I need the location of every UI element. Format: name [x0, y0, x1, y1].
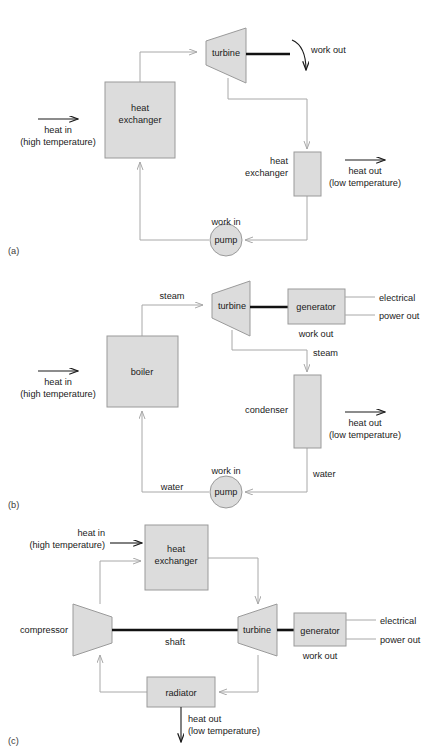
work-out-arrow-a: [292, 40, 306, 70]
panel-b: steam steam water water boiler turbine g…: [8, 281, 420, 510]
work-in-label-b: work in: [210, 466, 240, 476]
flow-boiler-to-turbine: [142, 305, 203, 336]
node-compressor[interactable]: [73, 604, 112, 656]
node-pump-a-label: pump: [215, 235, 238, 245]
heat-out-label-b-1: heat out: [348, 418, 382, 428]
node-heat-exchanger-hot-label-1: heat: [131, 103, 149, 113]
flow-turbine-to-condenser: [232, 330, 307, 372]
work-in-label-a: work in: [210, 217, 240, 227]
heat-out-label-a-1: heat out: [348, 166, 382, 176]
panel-tag-a: (a): [8, 246, 19, 256]
steam-label-right-b: steam: [313, 348, 338, 358]
panel-tag-b: (b): [8, 500, 19, 510]
heat-out-label-b-2: (low temperature): [329, 430, 401, 440]
node-condenser-label: condenser: [245, 405, 288, 415]
heat-in-label-b-1: heat in: [44, 377, 72, 387]
panel-tag-c: (c): [8, 736, 19, 746]
panel-a: heat exchanger turbine work out heat exc…: [8, 28, 401, 256]
heat-in-label-a-2: (high temperature): [20, 137, 96, 147]
flow-hx-to-turbine: [208, 558, 258, 604]
work-out-label-c: work out: [302, 651, 338, 661]
work-out-label-b: work out: [298, 329, 334, 339]
node-radiator-label: radiator: [165, 688, 196, 698]
electrical-label-c-1: electrical: [380, 616, 416, 626]
node-boiler-label: boiler: [131, 367, 153, 377]
water-label-bottom-b: water: [160, 482, 183, 492]
node-turbine-c-label: turbine: [243, 625, 271, 635]
steam-label-top-b: steam: [159, 291, 184, 301]
heat-in-label-c-2: (high temperature): [29, 540, 105, 550]
node-heat-exchanger-cold-label-2: exchanger: [245, 168, 288, 178]
flow-hx-cold-to-pump: [245, 195, 307, 240]
heat-out-label-c-2: (low temperature): [188, 726, 260, 736]
electrical-label-b-2: power out: [379, 311, 420, 321]
panel-c: heat exchanger heat in (high temperature…: [8, 525, 421, 746]
flow-pump-to-hx-hot: [140, 162, 209, 240]
heat-in-label-a-1: heat in: [44, 125, 72, 135]
heat-in-label-b-2: (high temperature): [20, 389, 96, 399]
figure-canvas: heat exchanger turbine work out heat exc…: [0, 0, 426, 755]
heat-out-label-a-2: (low temperature): [329, 178, 401, 188]
flow-radiator-to-compressor: [100, 655, 147, 692]
work-out-label-a: work out: [310, 45, 346, 55]
node-heat-exchanger-cold-label-1: heat: [270, 156, 288, 166]
node-compressor-label: compressor: [20, 625, 68, 635]
shaft-label-c: shaft: [165, 637, 185, 647]
node-condenser[interactable]: [294, 375, 321, 448]
node-heat-exchanger-cold[interactable]: [294, 152, 321, 196]
flow-turbine-to-radiator: [219, 655, 258, 692]
diagram-svg: heat exchanger turbine work out heat exc…: [0, 0, 426, 755]
flow-hx-hot-to-turbine: [140, 52, 197, 82]
node-pump-b-label: pump: [215, 487, 238, 497]
flow-compressor-to-hx: [100, 561, 141, 604]
node-heat-exchanger-c-label-2: exchanger: [155, 556, 198, 566]
water-label-right-b: water: [312, 469, 335, 479]
electrical-label-c-2: power out: [380, 635, 421, 645]
node-generator-c-label: generator: [300, 626, 339, 636]
flow-condenser-to-pump: [245, 448, 307, 492]
node-heat-exchanger-c-label-1: heat: [167, 544, 185, 554]
heat-in-label-c-1: heat in: [77, 528, 105, 538]
node-turbine-a-label: turbine: [212, 48, 240, 58]
heat-out-label-c-1: heat out: [188, 714, 222, 724]
node-heat-exchanger-hot-label-2: exchanger: [119, 115, 162, 125]
node-turbine-b-label: turbine: [218, 301, 246, 311]
node-generator-b-label: generator: [296, 302, 335, 312]
flow-turbine-to-hx-cold: [228, 78, 307, 149]
electrical-label-b-1: electrical: [379, 293, 415, 303]
flow-pump-to-boiler: [142, 411, 209, 492]
